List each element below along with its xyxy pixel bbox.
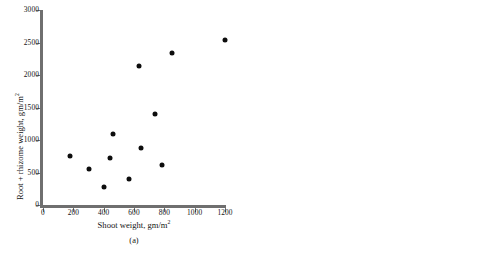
x-axis-tick-label: 400 xyxy=(98,209,109,217)
x-axis-tick-label: 1000 xyxy=(187,209,202,217)
y-axis-title: Root + rhizome weight, gm/m2 xyxy=(14,93,25,200)
data-point xyxy=(138,146,143,151)
data-point xyxy=(67,154,72,159)
data-point xyxy=(101,185,106,190)
x-axis-tick-label: 1200 xyxy=(217,209,232,217)
x-axis-title-superscript: 2 xyxy=(168,219,171,225)
y-axis-line xyxy=(40,10,43,208)
figure-two-scatter-plots: 0500100015002000250030000200400600800100… xyxy=(0,0,480,258)
x-axis-tick-label: 0 xyxy=(41,209,45,217)
y-axis-tick-label: 3000 xyxy=(5,6,39,14)
data-point xyxy=(169,50,174,55)
data-point xyxy=(87,166,92,171)
data-point xyxy=(108,155,113,160)
y-axis-title-superscript: 2 xyxy=(14,93,20,96)
data-point xyxy=(110,132,115,137)
data-point xyxy=(223,37,228,42)
x-axis-tick-label: 200 xyxy=(68,209,79,217)
data-point xyxy=(153,112,158,117)
y-axis-tick-label: 0 xyxy=(5,201,39,209)
x-axis-title: Shoot weight, gm/m2 xyxy=(98,219,171,230)
panel-a: 0500100015002000250030000200400600800100… xyxy=(0,0,240,258)
x-axis-tick-label: 600 xyxy=(128,209,139,217)
data-point xyxy=(136,63,141,68)
x-axis-tick-label: 800 xyxy=(159,209,170,217)
panel-caption: (a) xyxy=(129,236,138,245)
y-axis-tick-label: 2000 xyxy=(5,71,39,79)
data-point xyxy=(160,163,165,168)
data-point xyxy=(127,177,132,182)
panel-b: 051015202530080100120140⁄⁄Height, cmNumb… xyxy=(240,0,480,258)
y-axis-tick-label: 2500 xyxy=(5,39,39,47)
